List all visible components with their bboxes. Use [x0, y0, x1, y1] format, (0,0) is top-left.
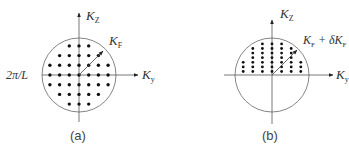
state-dot [77, 102, 80, 105]
state-dot [280, 47, 283, 50]
state-dot [271, 66, 274, 69]
state-dot [68, 93, 71, 96]
kz-label-b: KZ [279, 6, 294, 23]
state-dot [290, 52, 293, 55]
state-dot [77, 93, 80, 96]
state-dot [299, 61, 302, 64]
panel-b: KZ KF + δKF Ky (b) [224, 6, 349, 143]
state-dot [48, 83, 51, 86]
state-dot [261, 56, 264, 59]
state-dot [68, 73, 71, 76]
state-dot [58, 54, 61, 57]
state-dot [242, 70, 245, 73]
state-dot [261, 70, 264, 73]
state-dot [251, 47, 254, 50]
state-dot [106, 64, 109, 67]
state-dot [97, 83, 100, 86]
spacing-label: 2π/L [6, 68, 28, 82]
state-dot [280, 43, 283, 46]
state-dot [299, 66, 302, 69]
state-dot [290, 66, 293, 69]
state-dot [106, 73, 109, 76]
state-dot [271, 61, 274, 64]
state-dot [97, 93, 100, 96]
fermi-sphere-diagram: KZ KF Ky 2π/L (a) KZ KF + δKF Ky (b) [0, 0, 349, 155]
state-dot [251, 52, 254, 55]
state-dot [271, 43, 274, 46]
state-dot [77, 64, 80, 67]
state-dot [68, 54, 71, 57]
state-dot [77, 44, 80, 47]
caption-b: (b) [262, 128, 278, 143]
ky-label-a: Ky [141, 67, 155, 84]
state-dot [97, 73, 100, 76]
state-dot [68, 102, 71, 105]
state-dot [68, 64, 71, 67]
state-dot [106, 83, 109, 86]
state-dot [97, 64, 100, 67]
state-dot [251, 56, 254, 59]
state-dot [299, 70, 302, 73]
state-dot [87, 73, 90, 76]
caption-a: (a) [70, 128, 86, 143]
kf-radius-arrow-b [272, 50, 297, 75]
state-dot [87, 93, 90, 96]
panel-a: KZ KF Ky 2π/L (a) [6, 8, 155, 143]
state-dot [261, 43, 264, 46]
state-dot [87, 54, 90, 57]
state-dot [58, 73, 61, 76]
state-dot [242, 61, 245, 64]
state-dot [261, 66, 264, 69]
state-dot [242, 66, 245, 69]
state-dot [48, 73, 51, 76]
state-dot [271, 52, 274, 55]
kf-dkf-label-b: KF + δKF [302, 33, 347, 49]
kf-label-a: KF [108, 33, 123, 50]
state-dot [87, 102, 90, 105]
state-dot [271, 47, 274, 50]
state-dot [261, 47, 264, 50]
kz-label-a: KZ [85, 8, 100, 25]
state-dot [68, 44, 71, 47]
state-dot [261, 52, 264, 55]
state-dot [271, 70, 274, 73]
state-dot [261, 61, 264, 64]
state-dot [280, 61, 283, 64]
state-dot [58, 83, 61, 86]
state-dot [77, 54, 80, 57]
state-dot [58, 93, 61, 96]
state-dot [77, 83, 80, 86]
state-dot [68, 83, 71, 86]
state-dot [251, 66, 254, 69]
state-dot [251, 61, 254, 64]
state-dot [58, 64, 61, 67]
state-dot [290, 70, 293, 73]
state-dot [251, 70, 254, 73]
state-dot [290, 47, 293, 50]
state-dot [280, 52, 283, 55]
state-dot [280, 70, 283, 73]
state-dot [48, 64, 51, 67]
state-dot [280, 56, 283, 59]
kf-radius-arrow-a [79, 51, 103, 75]
state-dot [87, 83, 90, 86]
state-dot [87, 44, 90, 47]
ky-label-b: Ky [335, 67, 349, 84]
state-dot [271, 56, 274, 59]
state-dot [290, 61, 293, 64]
